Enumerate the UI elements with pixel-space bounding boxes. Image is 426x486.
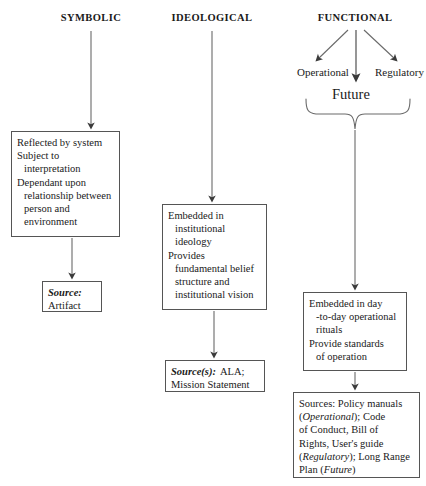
sources-line: (Regulatory); Long Range xyxy=(299,450,415,463)
box-line: Subject to xyxy=(17,149,115,162)
box-line: Dependant upon xyxy=(17,176,115,189)
box-line: institutional xyxy=(168,222,262,235)
box-line: Provide standards xyxy=(309,337,402,350)
arrow-functional-to-regulatory xyxy=(364,30,395,59)
box-ideological-description: Embedded in institutional ideology Provi… xyxy=(162,204,267,310)
brace-functional-branches xyxy=(306,99,410,129)
box-line: Embedded in xyxy=(168,209,262,222)
box-line: rituals xyxy=(309,323,402,336)
source-value: ALA; xyxy=(216,366,245,377)
box-line: structure and xyxy=(168,275,262,288)
box-functional-description: Embedded in day -to-day operational ritu… xyxy=(303,292,407,371)
box-line: ideology xyxy=(168,235,262,248)
box-ideological-source: Source(s):ALA; Mission Statement xyxy=(165,360,265,392)
sources-line: of Conduct, Bill of xyxy=(299,423,415,436)
box-functional-sources: Sources: Policy manuals (Operational); C… xyxy=(293,392,420,478)
box-symbolic-source: Source: Artifact xyxy=(42,281,102,312)
sources-emphasis-operational: Operational xyxy=(303,411,354,422)
column-heading-functional: FUNCTIONAL xyxy=(295,12,415,23)
box-line: Provides xyxy=(168,249,262,262)
box-symbolic-description: Reflected by system Subject to interpret… xyxy=(11,131,120,237)
arrow-functional-to-operational xyxy=(318,30,348,59)
sources-line: (Operational); Code xyxy=(299,410,415,423)
box-line: relationship between xyxy=(17,189,115,202)
branch-label-regulatory: Regulatory xyxy=(375,66,424,78)
box-line: -to-day operational xyxy=(309,310,402,323)
box-line: environment xyxy=(17,215,115,228)
source-label: Source: xyxy=(48,286,97,299)
sources-text: ); Long Range xyxy=(349,451,410,462)
source-label: Source(s): xyxy=(171,366,216,377)
box-line: person and xyxy=(17,202,115,215)
box-line: of operation xyxy=(309,350,402,363)
source-value: Mission Statement xyxy=(171,378,260,391)
column-heading-ideological: IDEOLOGICAL xyxy=(152,12,272,23)
box-line: institutional vision xyxy=(168,288,262,301)
sources-text: ); Code xyxy=(354,411,385,422)
branch-label-operational: Operational xyxy=(297,66,349,78)
sources-line: Rights, User's guide xyxy=(299,437,415,450)
box-line: Embedded in day xyxy=(309,297,402,310)
box-line: fundamental belief xyxy=(168,262,262,275)
box-line: interpretation xyxy=(17,162,115,175)
sources-text: ) xyxy=(352,464,356,475)
sources-line: Sources: Policy manuals xyxy=(299,397,415,410)
box-line: Reflected by system xyxy=(17,136,115,149)
source-value: Artifact xyxy=(48,299,97,312)
sources-emphasis-future: Future xyxy=(324,464,352,475)
sources-line: Plan (Future) xyxy=(299,463,415,476)
diagram-canvas: SYMBOLIC IDEOLOGICAL FUNCTIONAL Operatio… xyxy=(0,0,426,486)
branch-label-future: Future xyxy=(332,86,370,103)
sources-emphasis-regulatory: Regulatory xyxy=(303,451,350,462)
column-heading-symbolic: SYMBOLIC xyxy=(31,12,151,23)
sources-text: Plan ( xyxy=(299,464,324,475)
